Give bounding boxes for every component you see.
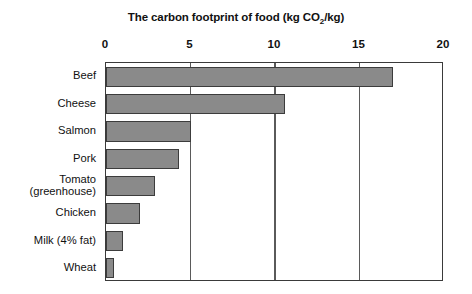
x-axis-tick-labels: 05101520 — [0, 38, 472, 56]
bar-salmon — [106, 121, 191, 141]
bar-row — [106, 176, 442, 196]
category-label-salmon: Salmon — [0, 124, 100, 137]
bar-wheat — [106, 258, 114, 278]
category-label-cheese: Cheese — [0, 97, 100, 110]
chart-title-text-before: The carbon footprint of food (kg CO — [128, 11, 320, 23]
bar-row — [106, 258, 442, 278]
category-label-pork: Pork — [0, 152, 100, 165]
bar-beef — [106, 67, 393, 87]
x-tick-label-15: 15 — [352, 38, 365, 50]
bar-row — [106, 94, 442, 114]
chart-title-text-after: /kg) — [324, 11, 344, 23]
bars-layer — [106, 63, 442, 280]
category-label-chicken: Chicken — [0, 206, 100, 219]
category-label-beef: Beef — [0, 69, 100, 82]
plot-area — [105, 62, 443, 281]
bar-row — [106, 67, 442, 87]
bar-milk-4-fat — [106, 231, 123, 251]
bar-row — [106, 121, 442, 141]
x-tick-label-10: 10 — [268, 38, 281, 50]
category-label-tomato-greenhouse: Tomato (greenhouse) — [0, 173, 100, 198]
chart-title: The carbon footprint of food (kg CO2/kg) — [0, 11, 472, 23]
bar-row — [106, 231, 442, 251]
category-label-wheat: Wheat — [0, 261, 100, 274]
x-tick-label-20: 20 — [437, 38, 450, 50]
y-axis-category-labels: BeefCheeseSalmonPorkTomato (greenhouse)C… — [0, 62, 100, 281]
carbon-footprint-bar-chart: The carbon footprint of food (kg CO2/kg)… — [0, 0, 472, 294]
bar-cheese — [106, 94, 285, 114]
bar-chicken — [106, 203, 140, 223]
bar-row — [106, 149, 442, 169]
x-tick-label-0: 0 — [102, 38, 108, 50]
bar-tomato-greenhouse — [106, 176, 155, 196]
chart-title-subscript: 2 — [320, 17, 324, 26]
x-tick-label-5: 5 — [186, 38, 192, 50]
bar-pork — [106, 149, 179, 169]
category-label-milk-4-fat: Milk (4% fat) — [0, 234, 100, 247]
bar-row — [106, 203, 442, 223]
